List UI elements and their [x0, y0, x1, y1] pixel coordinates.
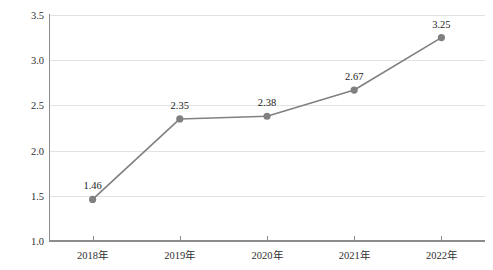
data-point-label: 3.25: [432, 19, 450, 30]
x-tick-mark: [354, 236, 355, 241]
x-tick-mark: [267, 236, 268, 241]
series-line-layer: [0, 0, 493, 270]
series-polyline: [93, 38, 442, 200]
y-axis-line: [49, 14, 50, 242]
data-point-marker: [89, 196, 96, 203]
gridline: [49, 241, 485, 242]
data-point-label: 1.46: [83, 180, 101, 191]
x-tick-label: 2022年: [426, 247, 457, 262]
gridline: [49, 15, 485, 16]
y-tick-label: 1.5: [0, 190, 44, 201]
x-tick-label: 2018年: [77, 247, 108, 262]
x-tick-label: 2020年: [252, 247, 283, 262]
data-point-marker: [263, 113, 270, 120]
gridline: [49, 151, 485, 152]
x-tick-mark: [93, 236, 94, 241]
line-chart: 比例 / % 1.01.52.02.53.03.5 2018年2019年2020…: [0, 0, 493, 270]
data-point-marker: [351, 86, 358, 93]
gridline: [49, 196, 485, 197]
y-tick-label: 1.0: [0, 236, 44, 247]
y-tick-label: 2.5: [0, 100, 44, 111]
y-tick-label: 3.5: [0, 10, 44, 21]
data-point-marker: [438, 34, 445, 41]
x-tick-mark: [441, 236, 442, 241]
x-tick-mark: [180, 236, 181, 241]
data-point-label: 2.67: [345, 71, 363, 82]
y-tick-label: 2.0: [0, 145, 44, 156]
data-point-label: 2.38: [258, 97, 276, 108]
y-tick-label: 3.0: [0, 55, 44, 66]
gridline: [49, 60, 485, 61]
data-point-marker: [176, 115, 183, 122]
data-point-label: 2.35: [171, 100, 189, 111]
x-tick-label: 2021年: [339, 247, 370, 262]
x-tick-label: 2019年: [164, 247, 195, 262]
